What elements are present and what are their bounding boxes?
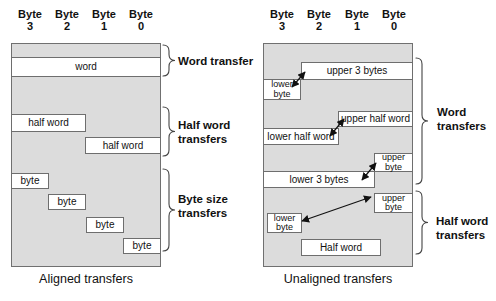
byte-header-word: Byte	[48, 8, 86, 20]
aligned-caption: Aligned transfers	[11, 272, 161, 286]
brace-byte-size-transfers	[163, 169, 175, 251]
label-line: Half word	[436, 214, 488, 228]
memory-transfer-diagram: Byte 3 Byte 2 Byte 1 Byte 0 word half wo…	[0, 0, 496, 301]
half-word-box: Half word	[301, 239, 381, 256]
brace-half-word-transfers-unaligned	[416, 191, 428, 254]
word-transfer-label: Word transfer	[178, 54, 253, 68]
label-line: Word	[437, 105, 486, 119]
lower-byte-half-box: lower byte	[267, 213, 302, 233]
column-header-byte3: Byte 3	[11, 8, 49, 32]
upper-3-bytes-box: upper 3 bytes	[301, 62, 413, 80]
column-header-byte2: Byte 2	[48, 8, 86, 32]
byte-size-transfers-label: Byte size transfers	[178, 192, 228, 220]
half-word-transfers-label: Half word transfers	[178, 118, 230, 146]
brace-half-word-transfers	[163, 107, 175, 156]
column-header-byte0: Byte 0	[375, 8, 413, 32]
column-header-byte0: Byte 0	[122, 8, 160, 32]
byte-header-number: 2	[300, 20, 338, 32]
label-line: transfers	[178, 132, 230, 146]
lower-byte-word-box: lower byte	[263, 79, 301, 100]
brace-word-transfer	[163, 45, 175, 76]
upper-byte-half-box: upper byte	[374, 193, 413, 213]
label-line: transfers	[437, 119, 486, 133]
label-line: Half word	[178, 118, 230, 132]
label-line: transfers	[178, 206, 228, 220]
byte2-box: byte	[48, 194, 86, 210]
upper-half-word-box: upper half word	[338, 111, 413, 127]
byte-header-word: Byte	[375, 8, 413, 20]
half-word-upper-box: half word	[11, 114, 86, 132]
word-box: word	[11, 57, 161, 77]
column-header-byte1: Byte 1	[85, 8, 123, 32]
label-line: Byte size	[178, 192, 228, 206]
label-line: transfers	[436, 228, 488, 242]
label-line: Word transfer	[178, 54, 253, 68]
word-transfers-label: Word transfers	[437, 105, 486, 133]
upper-byte-word-box: upper byte	[374, 153, 413, 172]
byte-header-number: 3	[11, 20, 49, 32]
byte-header-number: 1	[338, 20, 376, 32]
lower-half-word-box: lower half word	[263, 128, 339, 145]
byte-header-word: Byte	[263, 8, 301, 20]
column-header-byte1: Byte 1	[338, 8, 376, 32]
lower-3-bytes-box: lower 3 bytes	[263, 171, 375, 188]
byte-header-word: Byte	[300, 8, 338, 20]
column-header-byte2: Byte 2	[300, 8, 338, 32]
byte-header-word: Byte	[338, 8, 376, 20]
byte-header-word: Byte	[11, 8, 49, 20]
byte-header-number: 3	[263, 20, 301, 32]
byte3-box: byte	[11, 173, 49, 189]
brace-word-transfers-unaligned	[416, 58, 428, 184]
byte-header-number: 1	[85, 20, 123, 32]
byte-header-word: Byte	[122, 8, 160, 20]
byte-header-word: Byte	[85, 8, 123, 20]
half-word-lower-box: half word	[85, 137, 161, 154]
unaligned-caption: Unaligned transfers	[263, 272, 413, 286]
column-header-byte3: Byte 3	[263, 8, 301, 32]
half-word-transfers-label: Half word transfers	[436, 214, 488, 242]
byte0-box: byte	[123, 238, 161, 254]
byte-header-number: 0	[375, 20, 413, 32]
byte-header-number: 2	[48, 20, 86, 32]
byte1-box: byte	[86, 217, 124, 233]
byte-header-number: 0	[122, 20, 160, 32]
